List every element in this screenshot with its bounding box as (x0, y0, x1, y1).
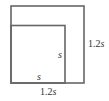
outer-bottom-label: 1.2s (40, 86, 57, 97)
outer-square (11, 6, 84, 83)
inner-bottom-label: s (37, 71, 41, 82)
inner-right-label: s (58, 49, 62, 60)
nested-squares-diagram: 1.2s 1.2s s s (0, 0, 109, 101)
outer-right-label: 1.2s (88, 38, 105, 49)
